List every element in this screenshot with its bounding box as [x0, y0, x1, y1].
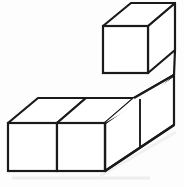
cube-stack-figure: Isometric cube stack figure Line drawing… [0, 0, 184, 187]
figure-canvas: Isometric cube stack figure Line drawing… [0, 0, 184, 187]
base-front-face-right [57, 123, 105, 171]
solid-right-vertical-edge [174, 50, 175, 75]
stacked-cube-front-face [103, 26, 148, 73]
base-front-faces [8, 123, 105, 171]
base-front-face-left [8, 123, 57, 171]
stacked-cube [103, 3, 175, 73]
